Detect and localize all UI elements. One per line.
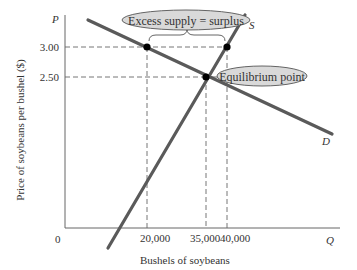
supply-curve	[108, 15, 245, 248]
supply-point-300	[223, 43, 230, 50]
origin-label: 0	[55, 233, 61, 245]
surplus-label: Excess supply = surplus	[128, 14, 244, 28]
y-tick-250: 2.50	[40, 71, 60, 83]
y-axis-symbol: P	[51, 13, 59, 25]
x-axis-title: Bushels of soybeans	[140, 254, 230, 266]
y-tick-300: 3.00	[40, 41, 60, 53]
x-tick-20000: 20,000	[140, 232, 171, 244]
x-axis-symbol: Q	[326, 234, 334, 246]
x-tick-35000: 35,000	[190, 232, 221, 244]
supply-label: S	[249, 19, 255, 31]
equilibrium-label: Equilibrium point	[219, 70, 305, 84]
y-axis-title: Price of soybeans per bushel ($)	[14, 59, 27, 201]
x-tick-40000: 40,000	[220, 232, 251, 244]
demand-point-300	[143, 43, 150, 50]
surplus-brace	[149, 29, 225, 41]
equilibrium-point	[202, 73, 209, 80]
demand-label: D	[321, 135, 330, 147]
supply-demand-chart: Excess supply = surplus Equilibrium poin…	[0, 0, 357, 270]
